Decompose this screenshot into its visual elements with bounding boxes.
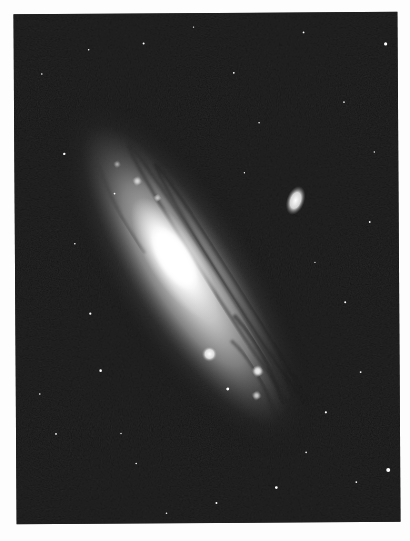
page — [0, 0, 410, 541]
galaxy-photograph — [13, 12, 400, 524]
galaxy-image — [13, 12, 400, 524]
lower-left-satellite — [201, 346, 217, 362]
